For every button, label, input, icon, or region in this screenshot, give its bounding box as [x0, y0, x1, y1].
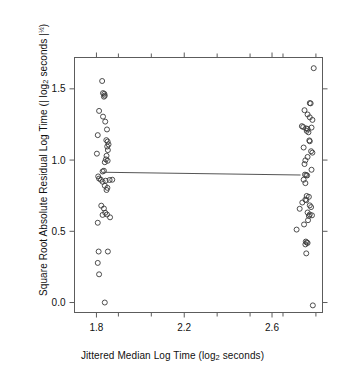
x-axis-title: Jittered Median Log Time (log2 seconds): [0, 350, 345, 362]
axis-tick-labels: 1.82.22.60.00.51.01.5: [52, 83, 280, 332]
svg-text:1.0: 1.0: [52, 155, 66, 166]
y-axis-title-mid: seconds |: [38, 33, 49, 79]
svg-text:0.0: 0.0: [52, 297, 66, 308]
plot-frame: [75, 58, 323, 313]
y-axis-title: Square Root Absolute Residual Log Time (…: [38, 36, 50, 296]
y-axis-title-sub: 2: [41, 79, 50, 83]
fit-line: [103, 172, 301, 175]
svg-text:2.6: 2.6: [265, 322, 279, 333]
plot-canvas: 1.82.22.60.00.51.01.5: [0, 0, 345, 377]
y-axis-title-sup: ½: [38, 27, 45, 33]
svg-text:2.2: 2.2: [177, 322, 191, 333]
y-axis-title-post: ): [38, 24, 49, 27]
data-points: [94, 66, 316, 308]
scatter-plot-figure: 1.82.22.60.00.51.01.5 Square Root Absolu…: [0, 0, 345, 377]
svg-text:0.5: 0.5: [52, 226, 66, 237]
svg-text:1.8: 1.8: [89, 322, 103, 333]
svg-text:1.5: 1.5: [52, 83, 66, 94]
x-axis-title-pre: Jittered Median Log Time (log: [81, 350, 216, 361]
axis-ticks: [70, 53, 328, 318]
y-axis-title-pre: Square Root Absolute Residual Log Time (…: [38, 84, 49, 296]
x-axis-title-post: seconds): [220, 350, 264, 361]
